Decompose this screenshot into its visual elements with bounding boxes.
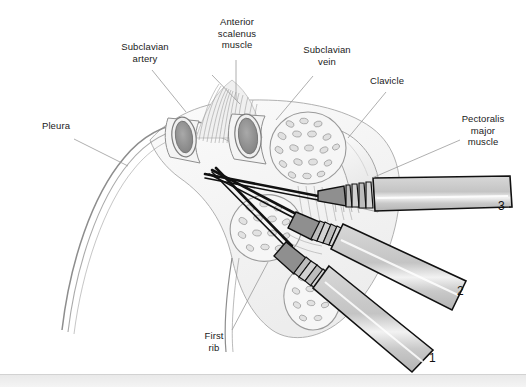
approach-number-2: 2 bbox=[457, 284, 464, 298]
label-pectoralis-major-muscle: Pectoralis major muscle bbox=[447, 113, 519, 148]
pectoralis-major-muscle bbox=[270, 112, 346, 184]
subclavian-artery bbox=[165, 116, 200, 163]
label-subclavian-vein: Subclavian vein bbox=[289, 44, 365, 67]
label-subclavian-artery: Subclavian artery bbox=[105, 41, 185, 64]
label-first-rib: First rib bbox=[189, 330, 239, 353]
leader-subclavian-artery bbox=[152, 70, 186, 112]
subclavian-vein bbox=[228, 113, 266, 164]
approach-number-3: 3 bbox=[498, 199, 505, 213]
label-anterior-scalenus-muscle: Anterior scalenus muscle bbox=[200, 16, 274, 51]
approach-number-1: 1 bbox=[429, 351, 436, 365]
leader-pleura bbox=[74, 139, 128, 166]
bottom-bar bbox=[0, 374, 526, 387]
label-clavicle: Clavicle bbox=[356, 75, 418, 87]
label-pleura: Pleura bbox=[26, 120, 86, 132]
